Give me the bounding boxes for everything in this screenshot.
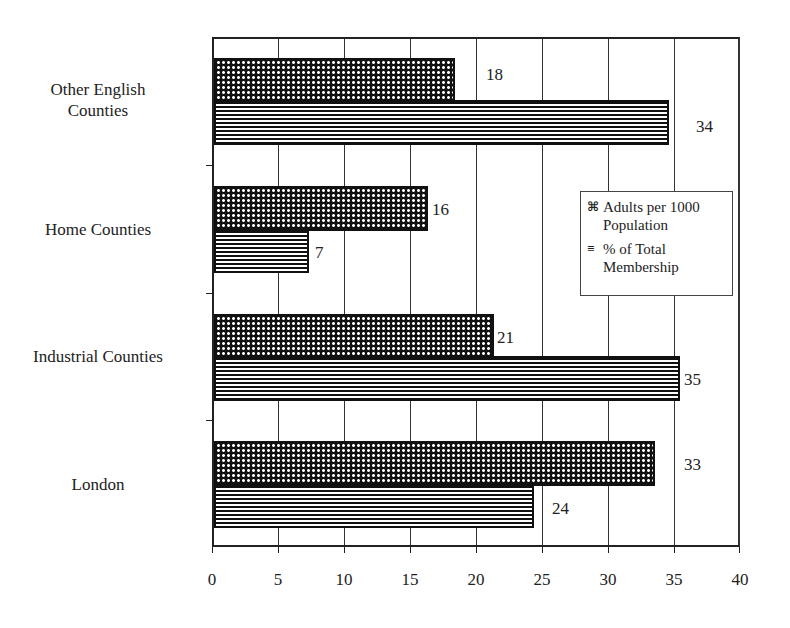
y-tick <box>206 165 212 166</box>
x-tick-label: 0 <box>197 570 227 590</box>
checkered-pattern-icon: ⌘ <box>587 198 603 216</box>
y-tick <box>206 420 212 421</box>
x-tick <box>344 547 345 553</box>
legend-label: Adults per 1000 Population <box>603 198 700 234</box>
bar-membership-other-english <box>214 100 669 145</box>
legend-item-membership: ≡ % of Total Membership <box>587 240 728 276</box>
bar-adults-london <box>214 441 655 486</box>
x-tick-label: 40 <box>725 570 755 590</box>
legend-label: % of Total Membership <box>603 240 679 276</box>
horizontal-lines-pattern-icon: ≡ <box>587 240 603 258</box>
legend-label-line: Membership <box>603 259 679 275</box>
legend-item-adults: ⌘ Adults per 1000 Population <box>587 198 728 234</box>
bar-adults-home <box>214 186 428 231</box>
bar-adults-other-english <box>214 58 455 102</box>
legend-label-line: Population <box>603 217 668 233</box>
category-label-london: London <box>0 474 198 495</box>
category-label-home: Home Counties <box>0 219 198 240</box>
value-label: 21 <box>497 329 514 346</box>
x-tick-label: 10 <box>329 570 359 590</box>
value-label: 7 <box>315 244 324 261</box>
category-label-other-english: Other English Counties <box>0 79 198 121</box>
x-tick-label: 15 <box>395 570 425 590</box>
value-label: 34 <box>696 118 713 135</box>
category-label-line: Counties <box>0 100 198 121</box>
value-label: 18 <box>486 66 503 83</box>
value-label: 33 <box>684 456 701 473</box>
x-tick-label: 25 <box>527 570 557 590</box>
y-tick <box>206 293 212 294</box>
x-tick-label: 35 <box>659 570 689 590</box>
bar-adults-industrial <box>214 314 494 358</box>
category-label-line: Other English <box>0 79 198 100</box>
x-tick <box>476 547 477 553</box>
value-label: 16 <box>432 201 449 218</box>
bar-membership-industrial <box>214 356 680 401</box>
value-label: 24 <box>552 500 569 517</box>
category-label-industrial: Industrial Counties <box>0 346 198 367</box>
x-tick-label: 30 <box>593 570 623 590</box>
x-tick <box>410 547 411 553</box>
x-tick <box>278 547 279 553</box>
legend: ⌘ Adults per 1000 Population ≡ % of Tota… <box>580 191 733 296</box>
x-tick <box>739 547 740 553</box>
x-tick <box>542 547 543 553</box>
value-label: 35 <box>684 371 701 388</box>
x-tick <box>212 547 213 553</box>
x-tick-label: 20 <box>461 570 491 590</box>
x-tick <box>608 547 609 553</box>
bar-membership-london <box>214 484 534 528</box>
legend-label-line: Adults per 1000 <box>603 199 700 215</box>
x-tick <box>674 547 675 553</box>
bar-membership-home <box>214 229 309 273</box>
x-tick-label: 5 <box>263 570 293 590</box>
legend-label-line: % of Total <box>603 241 666 257</box>
